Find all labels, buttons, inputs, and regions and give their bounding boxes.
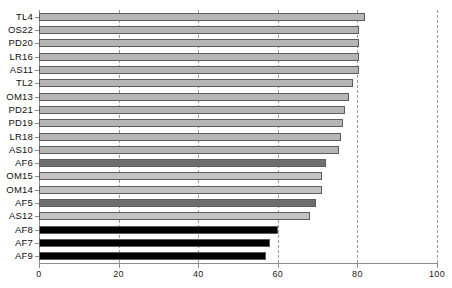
y-axis-label-AF8: AF8 [15,224,33,235]
bar-OS22 [39,26,359,34]
y-axis-label-TL4: TL4 [16,11,33,22]
y-tick-mark-OM15 [35,176,39,177]
bar-PD21 [39,106,345,114]
y-tick-mark-PD20 [35,43,39,44]
x-tick-mark-40 [198,263,199,268]
y-axis-label-AF6: AF6 [15,157,33,168]
y-tick-mark-AS12 [35,216,39,217]
y-tick-mark-TL2 [35,83,39,84]
x-tick-mark-80 [357,263,358,268]
bar-PD20 [39,39,359,47]
y-axis-label-OS22: OS22 [8,24,33,35]
x-tick-label-100: 100 [429,269,445,279]
y-axis-label-AF5: AF5 [15,197,33,208]
x-tick-mark-100 [437,263,438,268]
gridline-100 [437,10,438,263]
y-tick-mark-PD19 [35,123,39,124]
y-axis-label-TL2: TL2 [16,77,33,88]
bar-LR18 [39,133,341,141]
x-tick-label-80: 80 [352,269,363,279]
y-axis-label-OM15: OM15 [6,170,33,181]
bar-AF6 [39,159,326,167]
x-tick-label-40: 40 [193,269,204,279]
y-tick-mark-AF7 [35,243,39,244]
y-axis-label-PD19: PD19 [8,117,33,128]
y-tick-mark-AS10 [35,150,39,151]
y-axis-label-LR16: LR16 [9,51,33,62]
y-axis-label-AF7: AF7 [15,237,33,248]
y-axis-label-AF9: AF9 [15,250,33,261]
y-tick-mark-OM13 [35,97,39,98]
y-axis-label-OM14: OM14 [6,184,33,195]
x-axis-line [39,263,437,264]
y-axis-label-PD21: PD21 [8,104,33,115]
y-tick-mark-PD21 [35,110,39,111]
y-tick-mark-AF9 [35,256,39,257]
x-tick-label-20: 20 [113,269,124,279]
x-tick-label-60: 60 [272,269,283,279]
x-tick-label-0: 0 [36,269,41,279]
y-tick-mark-AS11 [35,70,39,71]
y-axis-label-LR18: LR18 [9,131,33,142]
bar-chart: 020406080100 TL4OS22PD20LR16AS11TL2OM13P… [0,0,452,288]
y-tick-mark-OM14 [35,190,39,191]
y-tick-mark-AF6 [35,163,39,164]
x-tick-mark-0 [39,263,40,268]
bar-AF8 [39,226,278,234]
y-axis-label-OM13: OM13 [6,91,33,102]
bar-TL4 [39,13,365,21]
x-tick-mark-60 [278,263,279,268]
bar-PD19 [39,119,343,127]
bar-LR16 [39,53,359,61]
bar-AF5 [39,199,316,207]
y-tick-mark-OS22 [35,30,39,31]
y-tick-mark-AF5 [35,203,39,204]
bar-AS11 [39,66,359,74]
bar-OM15 [39,172,322,180]
y-tick-mark-TL4 [35,17,39,18]
gridline-80 [357,10,358,263]
bar-OM13 [39,93,349,101]
bar-AS12 [39,212,310,220]
y-axis-label-PD20: PD20 [8,37,33,48]
bar-OM14 [39,186,322,194]
bar-AF9 [39,252,266,260]
y-tick-mark-AF8 [35,230,39,231]
bar-TL2 [39,79,353,87]
bar-AF7 [39,239,270,247]
bar-AS10 [39,146,339,154]
y-axis-label-AS11: AS11 [10,64,33,75]
y-tick-mark-LR16 [35,57,39,58]
y-axis-label-AS12: AS12 [9,210,33,221]
x-tick-mark-20 [119,263,120,268]
y-tick-mark-LR18 [35,137,39,138]
y-axis-label-AS10: AS10 [9,144,33,155]
